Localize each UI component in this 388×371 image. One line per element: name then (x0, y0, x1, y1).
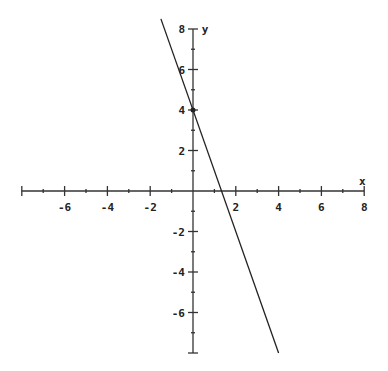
intercept-point (191, 108, 196, 113)
y-tick-label: 8 (178, 23, 185, 36)
line-series (161, 19, 279, 353)
y-tick-label: 4 (178, 104, 185, 117)
x-axis-label: x (359, 175, 366, 188)
y-tick-label: -2 (172, 226, 185, 239)
y-axis-label: y (202, 23, 209, 36)
x-tick-label: 6 (318, 201, 325, 214)
y-tick-label: -4 (172, 266, 186, 279)
x-tick-label: -6 (58, 201, 72, 214)
y-tick-label: -6 (172, 307, 186, 320)
x-tick-label: 8 (361, 201, 368, 214)
x-tick-label: 2 (232, 201, 239, 214)
x-tick-label: -4 (101, 201, 115, 214)
x-tick-label: 4 (275, 201, 282, 214)
x-tick-label: -2 (144, 201, 157, 214)
y-tick-label: 2 (178, 145, 185, 158)
coordinate-plane: -6-4-224688642-2-4-6xy (0, 0, 388, 371)
